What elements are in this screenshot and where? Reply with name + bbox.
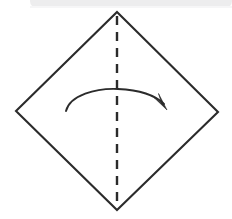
diagram-canvas: Origami fold step: fold square diamond i… [0, 0, 232, 219]
origami-fold-diagram: Origami fold step: fold square diamond i… [0, 0, 232, 219]
page-edge-band-shadow [30, 6, 232, 8]
